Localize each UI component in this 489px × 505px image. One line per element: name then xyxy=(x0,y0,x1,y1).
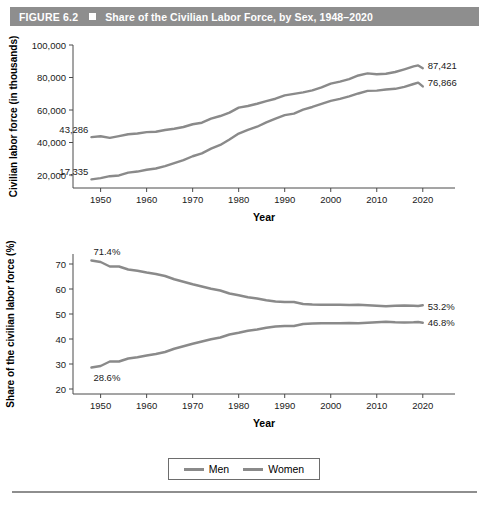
square-separator-icon xyxy=(89,13,96,20)
figure-header-bar: FIGURE 6.2 Share of the Civilian Labor F… xyxy=(10,7,479,26)
data-label: 53.2% xyxy=(428,301,455,312)
y-tick-label: 40,000 xyxy=(37,137,66,148)
legend-label-women: Women xyxy=(268,463,304,475)
legend-label-men: Men xyxy=(209,463,229,475)
x-tick-label: 2000 xyxy=(320,400,341,411)
series-line-women xyxy=(91,322,422,368)
x-tick-label: 2010 xyxy=(366,400,387,411)
chart-panel-shares: 2030405060701950196019701980199020002010… xyxy=(0,236,489,451)
x-axis-title: Year xyxy=(253,211,275,223)
chart-legend: Men Women xyxy=(168,458,320,480)
y-tick-label: 40 xyxy=(55,334,66,345)
y-tick-label: 30 xyxy=(55,359,66,370)
x-tick-label: 1960 xyxy=(136,400,157,411)
x-tick-label: 1950 xyxy=(90,400,111,411)
y-tick-label: 80,000 xyxy=(37,72,66,83)
x-axis-title: Year xyxy=(253,417,275,429)
x-tick-label: 2000 xyxy=(320,194,341,205)
data-label: 28.6% xyxy=(93,372,120,383)
y-tick-label: 100,000 xyxy=(32,40,66,51)
x-tick-label: 1990 xyxy=(274,400,295,411)
data-label: 43,286 xyxy=(59,124,88,135)
y-tick-label: 20 xyxy=(55,384,66,395)
x-tick-label: 1970 xyxy=(182,194,203,205)
x-tick-label: 1960 xyxy=(136,194,157,205)
y-tick-label: 60 xyxy=(55,284,66,295)
footer-divider xyxy=(12,491,477,493)
data-label: 46.8% xyxy=(428,317,455,328)
data-label: 87,421 xyxy=(428,60,457,71)
y-tick-label: 50 xyxy=(55,309,66,320)
x-tick-label: 2020 xyxy=(412,400,433,411)
x-tick-label: 1990 xyxy=(274,194,295,205)
x-tick-label: 1970 xyxy=(182,400,203,411)
shares-chart-svg: 2030405060701950196019701980199020002010… xyxy=(0,236,489,451)
y-axis-title: Share of the civilian labor force (%) xyxy=(5,240,16,407)
series-line-men xyxy=(91,261,422,307)
counts-chart-svg: 20,00040,00060,00080,000100,000195019601… xyxy=(0,28,489,238)
chart-panel-counts: 20,00040,00060,00080,000100,000195019601… xyxy=(0,28,489,238)
legend-swatch-men xyxy=(184,468,204,471)
y-axis-title: Civilian labor force (in thousands) xyxy=(8,36,19,198)
x-tick-label: 2020 xyxy=(412,194,433,205)
y-tick-label: 70 xyxy=(55,259,66,270)
legend-swatch-women xyxy=(243,468,263,471)
data-label: 17,335 xyxy=(59,166,88,177)
data-label: 71.4% xyxy=(93,246,120,257)
legend-item-women: Women xyxy=(243,463,304,475)
x-tick-label: 2010 xyxy=(366,194,387,205)
figure-number: FIGURE 6.2 xyxy=(19,11,78,23)
data-label: 76,866 xyxy=(428,77,457,88)
series-line-women xyxy=(91,83,422,180)
x-tick-label: 1950 xyxy=(90,194,111,205)
x-tick-label: 1980 xyxy=(228,194,249,205)
y-tick-label: 60,000 xyxy=(37,105,66,116)
x-tick-label: 1980 xyxy=(228,400,249,411)
figure-title: Share of the Civilian Labor Force, by Se… xyxy=(105,11,373,23)
legend-item-men: Men xyxy=(184,463,229,475)
